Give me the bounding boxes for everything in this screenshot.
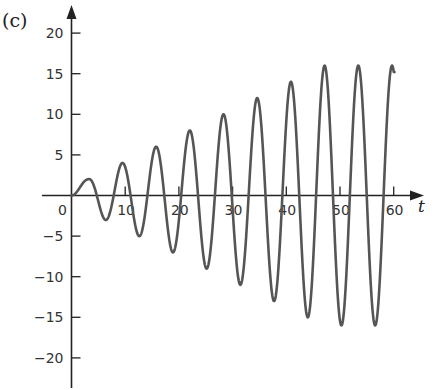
x-axis-label: t: [418, 196, 425, 216]
chart: (c) −20−15−10−55101520 0102030405060 t: [0, 0, 441, 390]
y-axis-arrow-icon: [67, 5, 77, 19]
y-tick-label: 10: [46, 106, 64, 122]
panel-label: (c): [2, 9, 27, 31]
y-tick-label: 20: [46, 25, 64, 41]
y-tick-label: −5: [43, 228, 64, 244]
y-tick-label: −15: [34, 309, 64, 325]
y-tick-label: −20: [34, 350, 64, 366]
y-tick-label: 15: [46, 66, 64, 82]
x-tick-label: 0: [58, 202, 67, 218]
y-axis: −20−15−10−55101520: [34, 5, 81, 388]
y-tick-label: 5: [55, 147, 64, 163]
x-tick-label: 60: [386, 202, 404, 218]
y-tick-label: −10: [34, 269, 64, 285]
